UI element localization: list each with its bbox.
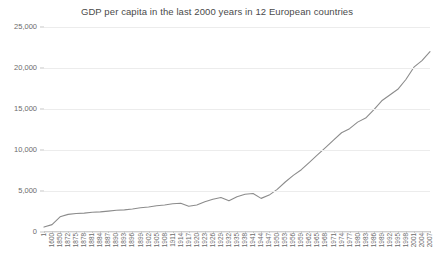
x-axis-tick-label: 1983 <box>363 233 369 247</box>
y-axis: 05,00010,00015,00020,00025,000 <box>0 27 44 232</box>
x-axis-tick-mark <box>76 231 77 233</box>
x-axis-tick-label: 1926 <box>210 233 216 247</box>
x-axis-tick-mark <box>301 231 302 233</box>
x-axis-tick-label: 2007 <box>427 233 433 247</box>
x-axis-tick-label: 1962 <box>306 233 312 247</box>
x-axis-tick-mark <box>68 231 69 233</box>
x-axis-tick-mark <box>406 231 407 233</box>
x-axis-tick-mark <box>325 231 326 233</box>
x-axis-tick-mark <box>398 231 399 233</box>
x-axis-tick-label: 1872 <box>65 233 71 247</box>
y-axis-tick-label: 25,000 <box>14 23 37 31</box>
x-axis-tick-label: 1899 <box>138 233 144 247</box>
x-axis-tick-mark <box>52 231 53 233</box>
x-axis: 1160018501872187518781881188418871890189… <box>44 233 430 270</box>
x-axis-tick-mark <box>253 231 254 233</box>
x-axis-tick-label: 1953 <box>282 233 288 247</box>
x-axis-tick-label: 1893 <box>121 233 127 247</box>
x-axis-tick-label: 1600 <box>49 233 55 247</box>
series-line-chart <box>44 27 430 232</box>
x-axis-tick-label: 1917 <box>186 233 192 247</box>
x-axis-tick-mark <box>173 231 174 233</box>
x-axis-tick-mark <box>350 231 351 233</box>
x-axis-tick-mark <box>165 231 166 233</box>
x-axis-tick-label: 1938 <box>242 233 248 247</box>
x-axis-tick-mark <box>213 231 214 233</box>
x-axis-tick-mark <box>422 231 423 233</box>
x-axis-tick-label: 1896 <box>129 233 135 247</box>
x-axis-tick-label: 1932 <box>226 233 232 247</box>
x-axis-tick-mark <box>245 231 246 233</box>
x-axis-tick-mark <box>366 231 367 233</box>
x-axis-tick-label: 1998 <box>403 233 409 247</box>
y-axis-tick-label: 0 <box>33 228 37 236</box>
x-axis-tick-mark <box>269 231 270 233</box>
x-axis-tick-mark <box>116 231 117 233</box>
x-axis-tick-mark <box>84 231 85 233</box>
x-axis-tick-label: 1974 <box>339 233 345 247</box>
x-axis-tick-mark <box>261 231 262 233</box>
gridline-horizontal <box>44 68 430 69</box>
x-axis-tick-mark <box>390 231 391 233</box>
x-axis-tick-label: 1902 <box>146 233 152 247</box>
x-axis-tick-mark <box>309 231 310 233</box>
x-axis-tick-mark <box>358 231 359 233</box>
x-axis-tick-mark <box>157 231 158 233</box>
x-axis-tick-label: 1911 <box>170 233 176 247</box>
x-axis-tick-label: 1923 <box>202 233 208 247</box>
x-axis-tick-mark <box>237 231 238 233</box>
series-path-gdp-per-capita <box>44 52 430 227</box>
x-axis-tick-mark <box>197 231 198 233</box>
x-axis-tick-mark <box>293 231 294 233</box>
x-axis-tick-mark <box>100 231 101 233</box>
gridline-horizontal <box>44 150 430 151</box>
x-axis-tick-label: 1950 <box>274 233 280 247</box>
x-axis-tick-mark <box>108 231 109 233</box>
x-axis-tick-mark <box>342 231 343 233</box>
gridline-horizontal <box>44 27 430 28</box>
x-axis-tick-label: 1887 <box>105 233 111 247</box>
gridline-horizontal <box>44 191 430 192</box>
x-axis-tick-label: 1850 <box>57 233 63 247</box>
chart-container: GDP per capita in the last 2000 years in… <box>0 0 434 270</box>
x-axis-tick-mark <box>141 231 142 233</box>
x-axis-tick-mark <box>124 231 125 233</box>
x-axis-tick-label: 1989 <box>379 233 385 247</box>
x-axis-tick-mark <box>334 231 335 233</box>
x-axis-tick-label: 1968 <box>322 233 328 247</box>
y-axis-tick-label: 15,000 <box>14 105 37 113</box>
x-axis-tick-label: 1929 <box>218 233 224 247</box>
x-axis-tick-label: 1947 <box>266 233 272 247</box>
x-axis-tick-label: 1995 <box>395 233 401 247</box>
x-axis-tick-mark <box>132 231 133 233</box>
x-axis-tick-label: 1884 <box>97 233 103 247</box>
y-axis-tick-label: 5,000 <box>18 187 37 195</box>
x-axis-tick-label: 1977 <box>347 233 353 247</box>
x-axis-tick-mark <box>221 231 222 233</box>
x-axis-tick-mark <box>374 231 375 233</box>
y-axis-tick-label: 20,000 <box>14 64 37 72</box>
x-axis-tick-mark <box>189 231 190 233</box>
x-axis-tick-label: 1914 <box>178 233 184 247</box>
x-axis-tick-mark <box>430 231 431 233</box>
x-axis-tick-label: 2004 <box>419 233 425 247</box>
x-axis-tick-label: 1920 <box>194 233 200 247</box>
x-axis-tick-mark <box>229 231 230 233</box>
x-axis-tick-label: 1890 <box>113 233 119 247</box>
x-axis-tick-label: 2001 <box>411 233 417 247</box>
x-axis-tick-mark <box>205 231 206 233</box>
x-axis-tick-mark <box>181 231 182 233</box>
x-axis-tick-label: 1908 <box>162 233 168 247</box>
x-axis-tick-mark <box>414 231 415 233</box>
x-axis-tick-mark <box>317 231 318 233</box>
x-axis-tick-label: 1881 <box>89 233 95 247</box>
x-axis-tick-label: 1 <box>41 233 47 237</box>
x-axis-tick-label: 1905 <box>154 233 160 247</box>
x-axis-tick-label: 1986 <box>371 233 377 247</box>
x-axis-tick-label: 1944 <box>258 233 264 247</box>
x-axis-tick-mark <box>92 231 93 233</box>
y-axis-tick-label: 10,000 <box>14 146 37 154</box>
x-axis-tick-label: 1980 <box>355 233 361 247</box>
x-axis-tick-label: 1971 <box>331 233 337 247</box>
chart-title: GDP per capita in the last 2000 years in… <box>0 6 434 17</box>
